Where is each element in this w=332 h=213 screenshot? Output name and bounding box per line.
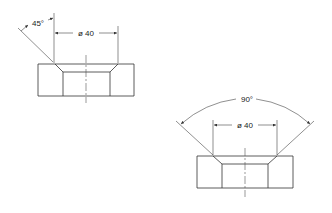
angle-label: 90° <box>241 95 253 104</box>
angle-arrow-left <box>21 25 28 31</box>
section-hatch-right <box>268 156 293 188</box>
countersink-90-view: ø 40 90° <box>176 95 314 197</box>
flank-line-right <box>277 121 314 155</box>
chamfer-leader-line <box>18 28 53 62</box>
angle-arc-left <box>181 99 236 124</box>
diameter-label: ø 40 <box>78 29 95 38</box>
section-hatch-left <box>197 156 222 188</box>
section-hatch-right <box>110 64 134 96</box>
angle-arrow-right <box>48 18 53 20</box>
countersink-45-view: ø 40 45° <box>18 13 134 103</box>
diameter-label: ø 40 <box>237 121 254 130</box>
angle-label: 45° <box>32 19 44 28</box>
angle-arc-right <box>256 99 310 124</box>
section-hatch-left <box>38 64 63 96</box>
flank-line-left <box>176 121 213 155</box>
technical-drawing-canvas: ø 40 45° ø 40 90° <box>0 0 332 213</box>
